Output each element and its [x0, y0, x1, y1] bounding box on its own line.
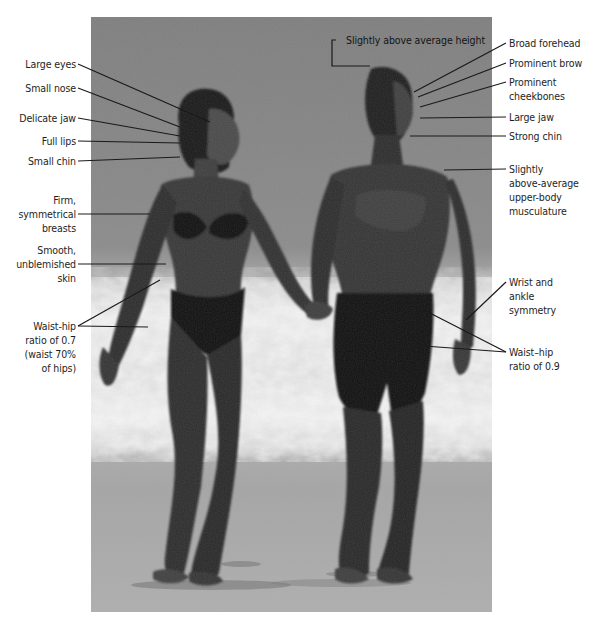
label-prominent-cheekbones: Prominent cheekbones: [509, 75, 565, 103]
label-upper-body-musculature: Slightly above-average upper-body muscul…: [509, 162, 579, 218]
label-waist-hip-ratio-0-7: Waist-hip ratio of 0.7 (waist 70% of hip…: [25, 319, 76, 375]
label-small-nose: Small nose: [25, 81, 76, 95]
label-large-jaw: Large jaw: [509, 110, 554, 124]
label-slightly-above-average-height: Slightly above average height: [346, 33, 485, 47]
beach-couple-photo: [91, 17, 492, 612]
label-broad-forehead: Broad forehead: [509, 36, 580, 50]
annotated-figure: Large eyes Small nose Delicate jaw Full …: [0, 0, 593, 627]
label-small-chin: Small chin: [28, 154, 76, 168]
label-smooth-unblemished-skin: Smooth, unblemished skin: [16, 243, 76, 285]
photo-scene: [91, 17, 492, 612]
label-wrist-ankle-symmetry: Wrist and ankle symmetry: [509, 275, 556, 317]
label-large-eyes: Large eyes: [25, 57, 76, 71]
label-firm-symmetrical-breasts: Firm, symmetrical breasts: [19, 193, 76, 235]
label-delicate-jaw: Delicate jaw: [19, 111, 76, 125]
label-waist-hip-ratio-0-9: Waist–hip ratio of 0.9: [509, 345, 560, 373]
label-strong-chin: Strong chin: [509, 129, 562, 143]
label-prominent-brow: Prominent brow: [509, 56, 582, 70]
label-full-lips: Full lips: [42, 134, 76, 148]
